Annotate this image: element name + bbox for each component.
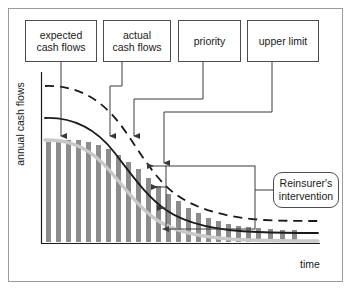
bar (166, 194, 171, 242)
callout-expected-cash-flows[interactable]: expected cash flows (25, 20, 97, 62)
bar (46, 142, 51, 242)
bar (116, 155, 121, 242)
bar (56, 141, 61, 242)
callout-priority[interactable]: priority (178, 20, 241, 62)
bar (86, 142, 91, 242)
callout-upper-limit[interactable]: upper limit (247, 20, 319, 62)
bar (106, 149, 111, 242)
bar (66, 140, 71, 242)
x-axis-label: time (300, 258, 320, 270)
leader-actual-cash-flows (110, 62, 122, 136)
bar (156, 186, 161, 242)
callout-leaders (61, 62, 272, 163)
y-axis-label: annual cash flows (14, 72, 26, 176)
bar (186, 208, 191, 242)
leader-upper-limit (164, 62, 272, 163)
bar (76, 140, 81, 242)
figure-root: expected cash flows actual cash flows pr… (0, 0, 360, 297)
callout-reinsurers-intervention[interactable]: Reinsurer's intervention (273, 172, 339, 208)
bar (196, 213, 201, 242)
bar (176, 201, 181, 242)
callout-actual-cash-flows[interactable]: actual cash flows (103, 20, 171, 62)
leader-priority (134, 62, 203, 136)
